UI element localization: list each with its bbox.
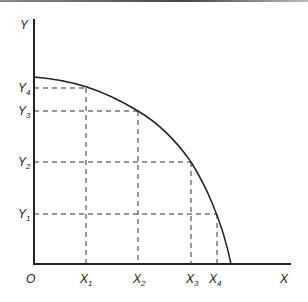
- origin-label: O: [26, 272, 35, 286]
- svg-text:3: 3: [194, 279, 199, 288]
- y-tick-y2: Y 2: [18, 155, 31, 171]
- frontier-curve: [34, 77, 231, 264]
- x-tick-x4: X 4: [208, 272, 222, 288]
- y-tick-y4: Y 4: [18, 81, 31, 97]
- svg-text:4: 4: [26, 88, 31, 97]
- svg-text:4: 4: [217, 279, 222, 288]
- svg-text:1: 1: [26, 214, 30, 223]
- svg-text:3: 3: [26, 111, 31, 120]
- ppf-diagram: Y X O Y 4 Y 3 Y 2 Y 1 X 1 X 2 X 3 X 4: [0, 0, 308, 302]
- x-axis-label: X: [279, 272, 289, 286]
- x-tick-x3: X 3: [185, 272, 199, 288]
- y-tick-y3: Y 3: [18, 104, 31, 120]
- svg-text:2: 2: [25, 162, 31, 171]
- svg-text:2: 2: [140, 279, 146, 288]
- svg-text:1: 1: [88, 279, 92, 288]
- guide-lines: [34, 88, 217, 264]
- x-tick-x1: X 1: [79, 272, 92, 288]
- x-tick-x2: X 2: [132, 272, 146, 288]
- y-tick-y1: Y 1: [18, 207, 30, 223]
- y-axis-label: Y: [20, 18, 29, 32]
